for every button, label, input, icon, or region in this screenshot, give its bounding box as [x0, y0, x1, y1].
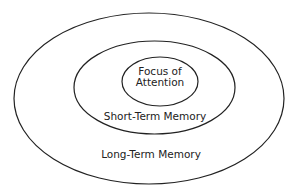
long-term-memory-label: Long-Term Memory	[101, 148, 201, 160]
memory-diagram: Focus of Attention Short-Term Memory Lon…	[0, 0, 298, 193]
short-term-memory-label: Short-Term Memory	[104, 110, 207, 122]
focus-of-attention-label-line-2: Attention	[136, 76, 184, 88]
